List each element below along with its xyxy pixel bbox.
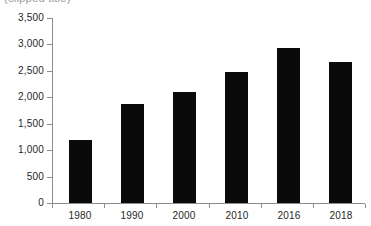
y-axis-label: 1,500 bbox=[18, 119, 44, 129]
y-axis-tick bbox=[47, 18, 52, 19]
bar bbox=[277, 48, 300, 203]
y-axis-tick bbox=[47, 71, 52, 72]
chart-title-text: (clipped title) bbox=[4, 0, 71, 4]
x-axis-tick bbox=[261, 204, 262, 208]
y-axis-label: 3,000 bbox=[18, 39, 44, 49]
x-axis-label: 1980 bbox=[58, 210, 102, 221]
bar bbox=[121, 104, 144, 203]
x-axis-tick bbox=[209, 204, 210, 208]
x-axis-label: 2018 bbox=[319, 210, 363, 221]
y-axis-label: 1,000 bbox=[18, 145, 44, 155]
bar bbox=[329, 62, 352, 203]
y-axis-tick bbox=[47, 124, 52, 125]
bar-chart: (clipped title) 05001,0001,5002,0002,500… bbox=[0, 0, 371, 226]
bar bbox=[225, 72, 248, 203]
y-axis-tick bbox=[47, 177, 52, 178]
y-axis-line bbox=[52, 18, 53, 204]
y-axis-label: 2,500 bbox=[18, 66, 44, 76]
chart-title-clipped: (clipped title) bbox=[0, 0, 371, 9]
y-axis-tick bbox=[47, 44, 52, 45]
y-axis-label: 0 bbox=[38, 198, 44, 208]
bar bbox=[69, 140, 92, 203]
bar bbox=[173, 92, 196, 203]
y-axis-label: 2,000 bbox=[18, 92, 44, 102]
x-axis-tick bbox=[104, 204, 105, 208]
y-axis-label: 3,500 bbox=[18, 13, 44, 23]
y-axis-label: 500 bbox=[27, 172, 44, 182]
y-axis-tick bbox=[47, 150, 52, 151]
x-axis-label: 2010 bbox=[215, 210, 259, 221]
y-axis-tick bbox=[47, 97, 52, 98]
x-axis-tick bbox=[365, 204, 366, 208]
x-axis-label: 2000 bbox=[162, 210, 206, 221]
x-axis-tick bbox=[52, 204, 53, 208]
x-axis-tick bbox=[156, 204, 157, 208]
x-axis-tick bbox=[313, 204, 314, 208]
x-axis-label: 2016 bbox=[267, 210, 311, 221]
x-axis-label: 1990 bbox=[110, 210, 154, 221]
